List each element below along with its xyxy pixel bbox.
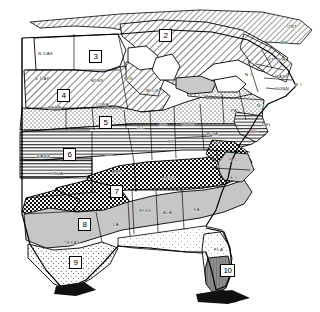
state-label-md: MD: [250, 129, 258, 134]
state-label-iowa: IOWA: [96, 102, 109, 107]
state-label-ill: ILL: [137, 125, 144, 130]
state-label-nc: N C: [229, 157, 238, 162]
state-label-la: LA: [113, 222, 119, 227]
state-label-ga: GA: [193, 207, 200, 212]
state-label-nj: N J: [257, 103, 265, 108]
zone-badge-10[interactable]: 10: [220, 264, 235, 277]
state-label-ala: ALA: [163, 210, 172, 215]
state-label-ri: R I: [295, 82, 302, 87]
state-label-wis: WIS: [124, 76, 133, 81]
state-label-vt: VT: [268, 57, 274, 62]
state-label-tenn: TENN: [162, 175, 175, 180]
state-label-miss: MISS: [139, 208, 151, 213]
zone-badge-6[interactable]: 6: [63, 148, 76, 161]
state-label-minn: MINN: [91, 78, 104, 83]
state-label-ndak: N DAK: [38, 51, 53, 56]
state-label-mass: MASS: [275, 74, 289, 79]
state-label-kans: KANS: [37, 153, 50, 158]
state-label-okla: OKLA: [50, 171, 63, 176]
state-label-ky: KY: [168, 139, 175, 144]
state-label-fla: FLA: [214, 247, 223, 252]
state-label-mo: MO: [105, 152, 113, 157]
state-label-nebr: NEBR: [48, 105, 62, 110]
state-label-ont: ONT: [287, 24, 297, 29]
state-label-ohio: OHIO: [182, 121, 195, 126]
state-label-conn: CONN: [275, 86, 289, 91]
state-label-mich: MICH: [146, 88, 159, 93]
zone-badge-5[interactable]: 5: [99, 116, 112, 129]
state-label-va: VA: [215, 140, 221, 145]
state-label-ind: IND: [159, 122, 168, 127]
zone-badge-9[interactable]: 9: [69, 256, 82, 269]
state-label-pa: PA: [231, 108, 237, 113]
zone-badge-3[interactable]: 3: [89, 50, 102, 63]
state-label-sdak: S DAK: [35, 76, 50, 81]
state-label-sc: S C: [230, 175, 238, 180]
state-label-nh: N H: [277, 57, 286, 62]
state-label-del: DEL: [262, 122, 272, 127]
state-label-me: ME: [281, 40, 288, 45]
zone-badge-8[interactable]: 8: [78, 218, 91, 231]
zone-badge-4[interactable]: 4: [57, 89, 70, 102]
state-label-ny: N Y: [245, 72, 253, 77]
state-label-wva: W VA: [206, 131, 218, 136]
us-zone-map: 2 3 4 5 6 7 8 9 10 ONT N DAK S DAK MINN …: [0, 0, 320, 312]
zone-badge-2[interactable]: 2: [159, 29, 172, 42]
zone-badge-7[interactable]: 7: [110, 185, 123, 198]
state-label-ark: ARK: [112, 169, 122, 174]
state-label-texas: TEXAS: [64, 240, 80, 245]
